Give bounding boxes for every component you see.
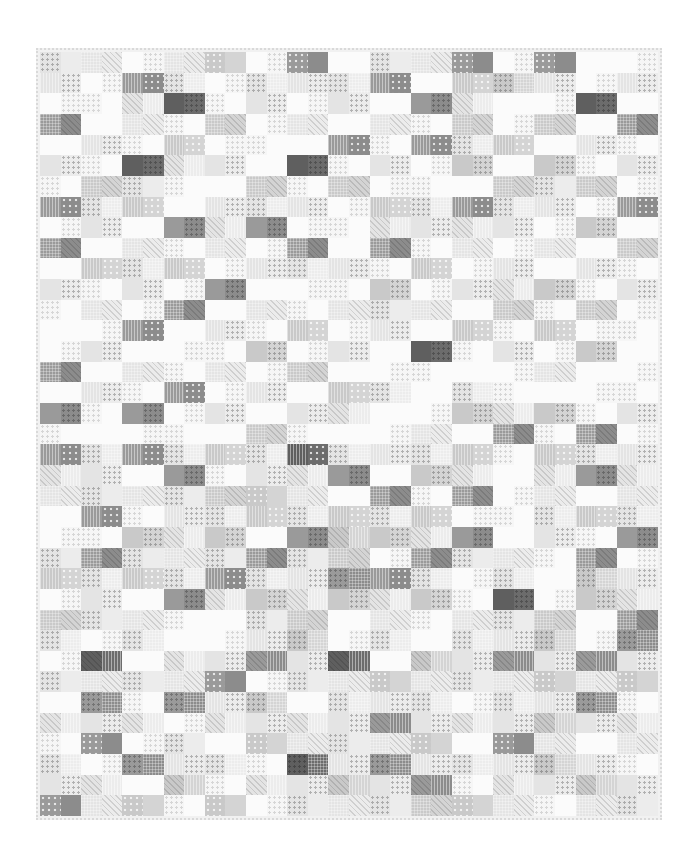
quilt-patch <box>493 93 534 114</box>
fabric-square <box>328 775 349 796</box>
fabric-square <box>184 279 205 300</box>
quilt-patch <box>370 486 411 507</box>
quilt-patch <box>576 465 617 486</box>
fabric-square <box>328 403 349 424</box>
fabric-square <box>61 52 82 73</box>
fabric-square <box>617 527 638 548</box>
fabric-square <box>184 692 205 713</box>
fabric-square <box>473 444 494 465</box>
quilt-patch <box>287 444 328 465</box>
fabric-square <box>493 548 514 569</box>
fabric-square <box>61 258 82 279</box>
fabric-square <box>40 548 61 569</box>
quilt-patch <box>452 692 493 713</box>
quilt-patch <box>576 135 617 156</box>
fabric-square <box>287 341 308 362</box>
fabric-square <box>61 671 82 692</box>
fabric-square <box>370 238 391 259</box>
fabric-square <box>493 630 514 651</box>
quilt-patch <box>370 589 411 610</box>
quilt-patch <box>370 52 411 73</box>
fabric-square <box>205 671 226 692</box>
quilt-patch <box>205 197 246 218</box>
fabric-square <box>205 506 226 527</box>
quilt-patch <box>452 589 493 610</box>
fabric-square <box>164 279 185 300</box>
quilt-patch <box>411 114 452 135</box>
fabric-square <box>473 527 494 548</box>
fabric-square <box>431 52 452 73</box>
fabric-square <box>576 486 597 507</box>
fabric-square <box>555 155 576 176</box>
quilt-patch <box>40 176 81 197</box>
fabric-square <box>349 610 370 631</box>
fabric-square <box>452 651 473 672</box>
fabric-square <box>267 238 288 259</box>
fabric-square <box>225 630 246 651</box>
quilt-patch <box>493 568 534 589</box>
fabric-square <box>287 73 308 94</box>
quilt-patch <box>328 52 369 73</box>
fabric-square <box>267 527 288 548</box>
fabric-square <box>164 176 185 197</box>
fabric-square <box>122 775 143 796</box>
fabric-square <box>102 795 123 816</box>
fabric-square <box>61 341 82 362</box>
quilt-patch <box>40 300 81 321</box>
fabric-square <box>411 465 432 486</box>
quilt-patch <box>246 506 287 527</box>
fabric-square <box>225 176 246 197</box>
fabric-square <box>102 548 123 569</box>
quilt-patch <box>617 300 658 321</box>
fabric-square <box>205 93 226 114</box>
quilt-patch <box>246 610 287 631</box>
fabric-square <box>555 589 576 610</box>
fabric-square <box>637 775 658 796</box>
fabric-square <box>164 52 185 73</box>
quilt-patch <box>164 300 205 321</box>
fabric-square <box>534 155 555 176</box>
quilt-patch <box>328 93 369 114</box>
fabric-square <box>411 754 432 775</box>
quilt-patch <box>452 548 493 569</box>
fabric-square <box>81 754 102 775</box>
fabric-square <box>349 775 370 796</box>
quilt-patch <box>40 341 81 362</box>
quilt-patch <box>576 155 617 176</box>
quilt-patch <box>122 155 163 176</box>
fabric-square <box>61 444 82 465</box>
fabric-square <box>617 733 638 754</box>
fabric-square <box>514 465 535 486</box>
fabric-square <box>534 568 555 589</box>
fabric-square <box>493 795 514 816</box>
fabric-square <box>555 52 576 73</box>
fabric-square <box>143 775 164 796</box>
fabric-square <box>225 733 246 754</box>
quilt-patch <box>617 775 658 796</box>
quilt-patch <box>81 93 122 114</box>
fabric-square <box>328 671 349 692</box>
quilt-patch <box>576 795 617 816</box>
quilt-patch <box>164 403 205 424</box>
fabric-square <box>390 238 411 259</box>
quilt-patch <box>164 197 205 218</box>
fabric-square <box>61 548 82 569</box>
fabric-square <box>267 258 288 279</box>
fabric-square <box>493 197 514 218</box>
fabric-square <box>576 651 597 672</box>
fabric-square <box>267 671 288 692</box>
fabric-square <box>287 795 308 816</box>
patch-grid <box>40 52 658 816</box>
quilt-patch <box>164 362 205 383</box>
quilt-patch <box>411 217 452 238</box>
fabric-square <box>493 444 514 465</box>
fabric-square <box>617 754 638 775</box>
fabric-square <box>390 733 411 754</box>
quilt-patch <box>287 403 328 424</box>
fabric-square <box>473 114 494 135</box>
quilt-patch <box>534 486 575 507</box>
fabric-square <box>596 238 617 259</box>
fabric-square <box>514 238 535 259</box>
fabric-square <box>328 197 349 218</box>
fabric-square <box>514 671 535 692</box>
